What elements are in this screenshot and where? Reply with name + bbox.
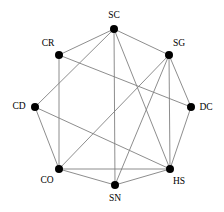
graph-node-label-cr: CR [42,38,55,48]
graph-node-sc[interactable] [110,25,118,33]
graph-edge [114,29,169,55]
node-labels-group: SCSGDCHSSNCOCDCR [12,10,212,203]
graph-edge [59,29,114,55]
graph-node-label-sg: SG [173,38,185,48]
graph-node-label-hs: HS [173,176,185,186]
graph-edge [59,55,191,107]
graph-node-label-dc: DC [199,102,212,112]
graph-node-cd[interactable] [31,103,39,111]
graph-node-cr[interactable] [55,51,63,59]
graph-edge [169,55,170,169]
graph-node-dc[interactable] [187,103,195,111]
graph-node-hs[interactable] [166,165,174,173]
graph-edge [114,29,115,185]
graph-node-label-sn: SN [109,193,121,203]
graph-node-label-cd: CD [12,101,25,111]
graph-node-sn[interactable] [111,181,119,189]
graph-edge [115,55,169,185]
graph-edge [59,169,115,185]
graph-edge [115,169,170,185]
graph-node-co[interactable] [55,165,63,173]
graph-edge [114,29,170,169]
network-graph: SCSGDCHSSNCOCDCR [0,0,224,212]
graph-node-label-sc: SC [108,10,120,20]
graph-edge [170,107,191,169]
graph-node-sg[interactable] [165,51,173,59]
network-graph-container: SCSGDCHSSNCOCDCR [0,0,224,212]
graph-node-label-co: CO [40,175,53,185]
